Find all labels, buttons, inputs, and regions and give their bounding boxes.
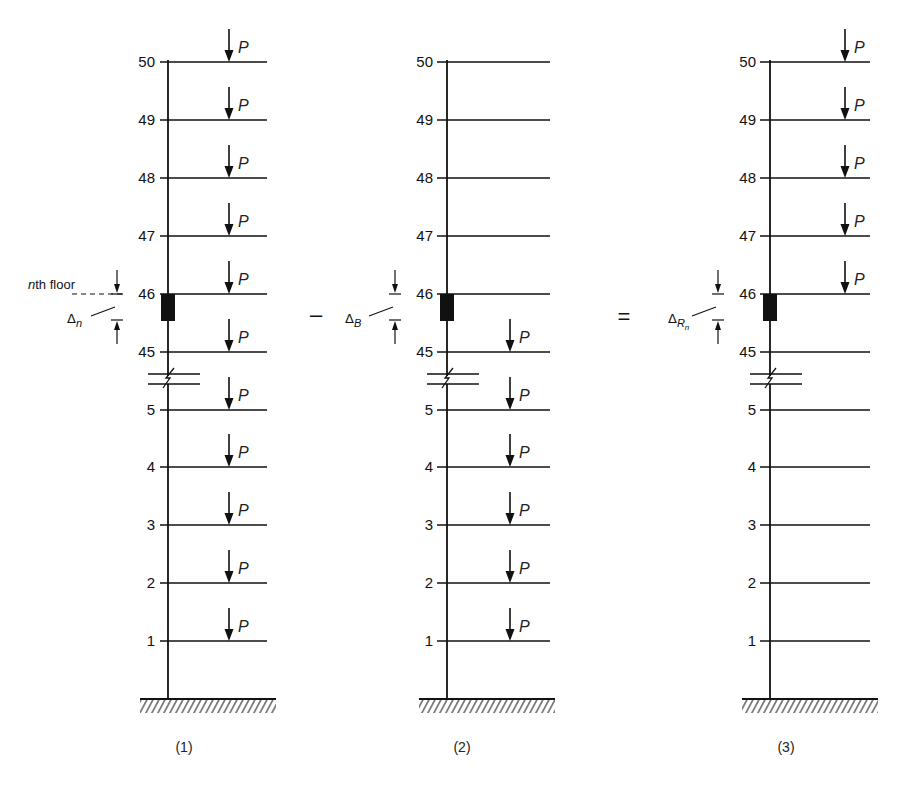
floor-47: 47 xyxy=(416,227,550,244)
equals-operator: = xyxy=(618,304,631,329)
load-arrow-icon: P xyxy=(225,87,250,120)
fixed-base-ground xyxy=(742,699,878,713)
floor-2: 2 xyxy=(748,574,870,591)
load-arrow-icon: P xyxy=(225,434,250,467)
floor-4: 4 xyxy=(147,458,267,475)
floor-49: 49 xyxy=(739,111,870,128)
load-arrow-icon: P xyxy=(225,261,250,294)
load-arrow-icon: P xyxy=(506,377,531,410)
floor-1: 1 xyxy=(147,632,267,649)
nth-floor-column-segment xyxy=(763,294,777,321)
load-arrow-icon: P xyxy=(225,203,250,236)
floor-label: 48 xyxy=(739,169,756,186)
load-label: P xyxy=(519,618,530,635)
load-arrow-icon: P xyxy=(225,550,250,583)
floor-label: 46 xyxy=(416,285,433,302)
floor-label: 5 xyxy=(425,401,433,418)
floor-label: 1 xyxy=(147,632,155,649)
floor-label: 2 xyxy=(425,574,433,591)
shortening-annotation: Δn xyxy=(67,270,123,344)
floor-label: 1 xyxy=(425,632,433,649)
floor-label: 3 xyxy=(425,516,433,533)
load-label: P xyxy=(238,39,249,56)
load-arrow-icon: P xyxy=(225,608,250,641)
floor-45: 45 xyxy=(739,343,870,360)
load-label: P xyxy=(238,329,249,346)
floor-label: 46 xyxy=(138,285,155,302)
floor-50: 50 xyxy=(739,53,870,70)
floor-label: 45 xyxy=(416,343,433,360)
floor-1: 1 xyxy=(748,632,870,649)
floor-label: 48 xyxy=(416,169,433,186)
load-arrow-icon: P xyxy=(506,550,531,583)
floor-label: 5 xyxy=(147,401,155,418)
delta-label: ΔB xyxy=(345,311,361,329)
panel-1: 50494847464554321PPPPPPPPPPPΔnnth floor(… xyxy=(28,29,276,755)
floor-label: 50 xyxy=(138,53,155,70)
delta-label: ΔRn xyxy=(668,311,690,332)
floor-3: 3 xyxy=(425,516,550,533)
load-arrow-icon: P xyxy=(841,29,866,62)
load-arrow-icon: P xyxy=(506,319,531,352)
load-label: P xyxy=(519,444,530,461)
fixed-base-ground xyxy=(140,699,276,713)
floor-label: 46 xyxy=(739,285,756,302)
floor-2: 2 xyxy=(425,574,550,591)
floor-48: 48 xyxy=(416,169,550,186)
floor-label: 1 xyxy=(748,632,756,649)
floor-label: 2 xyxy=(748,574,756,591)
nth-floor-column-segment xyxy=(440,294,454,321)
floor-label: 3 xyxy=(748,516,756,533)
load-label: P xyxy=(854,39,865,56)
floor-1: 1 xyxy=(425,632,550,649)
column-superposition-diagram: 50494847464554321PPPPPPPPPPPΔnnth floor(… xyxy=(0,0,907,786)
floor-label: 49 xyxy=(138,111,155,128)
load-label: P xyxy=(854,155,865,172)
floor-label: 4 xyxy=(147,458,155,475)
floor-label: 45 xyxy=(138,343,155,360)
floor-label: 48 xyxy=(138,169,155,186)
load-arrow-icon: P xyxy=(506,492,531,525)
load-arrow-icon: P xyxy=(225,319,250,352)
load-label: P xyxy=(238,213,249,230)
floor-2: 2 xyxy=(147,574,267,591)
delta-label: Δn xyxy=(67,311,82,329)
panel-caption: (2) xyxy=(453,739,470,755)
break-symbol xyxy=(750,368,802,388)
minus-operator: – xyxy=(310,302,323,327)
floor-3: 3 xyxy=(147,516,267,533)
panel-caption: (1) xyxy=(175,739,192,755)
load-label: P xyxy=(238,271,249,288)
load-arrow-icon: P xyxy=(225,145,250,178)
fixed-base-ground xyxy=(419,699,555,713)
load-arrow-icon: P xyxy=(841,261,866,294)
load-arrow-icon: P xyxy=(841,145,866,178)
load-label: P xyxy=(238,618,249,635)
nth-floor-column-segment xyxy=(161,294,175,321)
load-label: P xyxy=(519,502,530,519)
floor-label: 50 xyxy=(416,53,433,70)
load-label: P xyxy=(238,387,249,404)
floor-label: 49 xyxy=(739,111,756,128)
panel-3: 50494847464554321PPPPPΔRn(3) xyxy=(668,29,878,755)
load-label: P xyxy=(854,97,865,114)
floor-5: 5 xyxy=(748,401,870,418)
floor-label: 49 xyxy=(416,111,433,128)
floor-49: 49 xyxy=(416,111,550,128)
floor-47: 47 xyxy=(739,227,870,244)
load-label: P xyxy=(238,502,249,519)
floor-45: 45 xyxy=(416,343,550,360)
panel-2: 50494847464554321PPPPPPΔB(2) xyxy=(345,53,555,755)
floor-label: 45 xyxy=(739,343,756,360)
load-arrow-icon: P xyxy=(841,203,866,236)
floor-50: 50 xyxy=(416,53,550,70)
floor-label: 47 xyxy=(739,227,756,244)
nth-floor-label: nth floor xyxy=(28,277,76,292)
floor-4: 4 xyxy=(748,458,870,475)
floor-5: 5 xyxy=(147,401,267,418)
floor-label: 47 xyxy=(416,227,433,244)
floor-label: 3 xyxy=(147,516,155,533)
load-label: P xyxy=(238,155,249,172)
floor-label: 4 xyxy=(748,458,756,475)
load-label: P xyxy=(519,387,530,404)
